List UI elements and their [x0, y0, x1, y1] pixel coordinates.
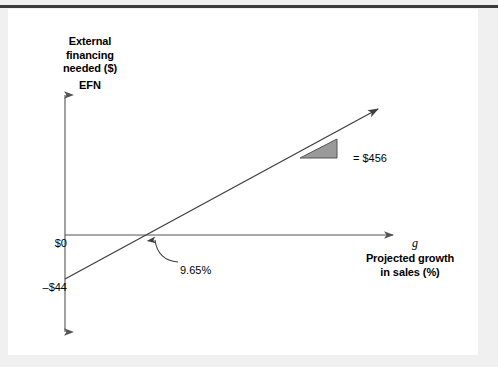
y-axis-symbol-label: EFN — [34, 79, 146, 91]
y-axis-title: External financing needed ($) — [34, 35, 146, 76]
x-axis-title: Projected growth in sales (%) — [338, 252, 482, 279]
top-horizontal-rule — [0, 5, 498, 8]
y-tick-label-neg44: –$44 — [30, 281, 67, 293]
y-tick-label-zero: $0 — [43, 237, 67, 249]
figure-page: External financing needed ($) EFN $0 –$4… — [0, 0, 498, 367]
intercept-callout-arrow — [155, 240, 178, 262]
efn-line — [65, 109, 378, 279]
figure-panel: External financing needed ($) EFN $0 –$4… — [8, 9, 478, 355]
slope-triangle-annotation: = $456 — [353, 152, 387, 164]
x-intercept-annotation: 9.65% — [180, 264, 211, 276]
x-axis-symbol-label: g — [412, 236, 418, 251]
